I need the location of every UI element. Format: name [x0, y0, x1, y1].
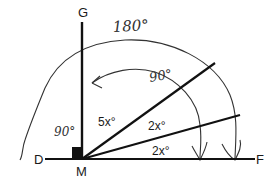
angle-label-2x-middle: 2x° [148, 119, 166, 133]
annotation-90-left: 90° [54, 125, 75, 139]
angle-label-2x-bottom: 2x° [152, 144, 170, 158]
angle-label-5x: 5x° [98, 115, 116, 129]
angle-diagram: G D M F 5x° 2x° 2x° 180° 90° 90° [0, 0, 272, 178]
annotation-90-top: 90° [148, 66, 173, 85]
geometry-lines [45, 22, 255, 159]
point-label-F: F [256, 152, 264, 167]
point-label-M: M [76, 164, 87, 178]
point-label-G: G [78, 5, 88, 20]
annotation-180: 180° [112, 16, 149, 36]
point-label-D: D [34, 152, 43, 167]
arc-180 [20, 40, 241, 160]
right-angle-marker [72, 147, 82, 159]
